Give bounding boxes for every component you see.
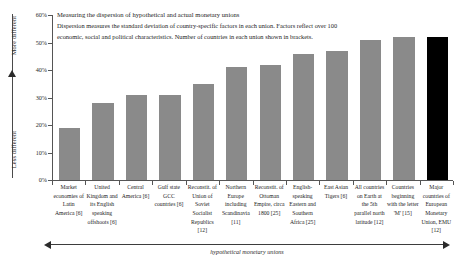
category-label: Reconstit. of Union of Soviet Socialist …: [186, 183, 218, 235]
category-label: Gulf state GCC countries [6]: [153, 183, 185, 209]
y-tick: [48, 70, 52, 71]
x-axis-category-labels: Market economies of Latin America [6]Uni…: [52, 183, 453, 235]
category-label: Major countries of European Monetary Uni…: [420, 183, 452, 235]
y-tick: [48, 15, 52, 16]
category-label: East Asian Tigers [6]: [320, 183, 352, 200]
bar[interactable]: [293, 54, 314, 181]
chart-title-block: Measuring the dispersion of hypothetical…: [57, 9, 407, 42]
y-tick-label: 10%: [27, 150, 47, 156]
bar[interactable]: [427, 37, 448, 180]
x-axis-direction-annotation: hypothetical monetary unions: [44, 239, 450, 259]
bar[interactable]: [360, 40, 381, 180]
chart-subtitle-line-1: Dispersion measures the standard deviati…: [57, 20, 407, 31]
bar[interactable]: [126, 95, 147, 180]
bar[interactable]: [260, 65, 281, 181]
y-tick: [48, 43, 52, 44]
category-label: Market economies of Latin America [6]: [53, 183, 85, 218]
bar[interactable]: [193, 84, 214, 180]
y-tick-label: 20%: [27, 122, 47, 128]
category-label: Countries beginning with the letter 'M' …: [387, 183, 419, 218]
bar[interactable]: [393, 37, 414, 180]
y-axis-direction-annotation: More different Less different: [4, 10, 20, 182]
category-label: Reconstit. of Ottoman Empire, circa 1800…: [253, 183, 285, 218]
bar[interactable]: [59, 128, 80, 180]
y-tick-label: 40%: [27, 67, 47, 73]
y-tick: [48, 125, 52, 126]
bar[interactable]: [326, 51, 347, 180]
y-tick-label: 60%: [27, 12, 47, 18]
x-tick: [453, 181, 454, 185]
y-tick-label: 0%: [27, 177, 47, 183]
chart-root: More different Less different 0%10%20%30…: [0, 0, 457, 263]
x-direction-line: [50, 244, 444, 245]
bar[interactable]: [92, 103, 113, 180]
category-label: Central America [6]: [119, 183, 151, 200]
y-tick-label: 30%: [27, 95, 47, 101]
category-label: Northern Europe including Scandinavia [1…: [220, 183, 252, 226]
chart-subtitle-line-2: economic, social and political character…: [57, 31, 407, 42]
category-label: All countries on Earth at the 5th parall…: [353, 183, 385, 226]
bar[interactable]: [226, 67, 247, 180]
y-tick-label: 50%: [27, 40, 47, 46]
y-axis-label-more-different: More different: [10, 0, 17, 76]
category-label: United Kingdom and its English speaking …: [86, 183, 118, 226]
chart-title: Measuring the dispersion of hypothetical…: [57, 9, 407, 20]
y-tick: [48, 98, 52, 99]
bar-slot[interactable]: [427, 14, 448, 180]
y-axis-label-less-different: Less different: [10, 110, 17, 190]
category-label: English-speaking Eastern and Southern Af…: [286, 183, 318, 226]
bar[interactable]: [159, 95, 180, 180]
y-tick: [48, 153, 52, 154]
x-axis-label: hypothetical monetary unions: [44, 248, 450, 255]
